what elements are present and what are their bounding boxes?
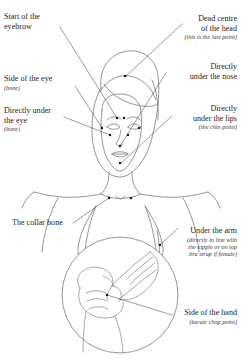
label-under-nose-line1: Directly: [210, 62, 237, 71]
label-side-of-eye-note: (bone): [4, 84, 52, 91]
label-under-eye-line2: the eye: [4, 116, 27, 125]
label-side-of-hand: Side of the hand (karate chop point): [184, 308, 237, 325]
label-dead-centre-line2: of the head: [201, 24, 237, 33]
label-start-of-eyebrow: Start of the eyebrow: [4, 12, 40, 31]
label-under-arm-note3: bra strap if female): [187, 250, 237, 257]
label-under-nose-line2: under the nose: [190, 72, 237, 81]
eft-tapping-points-diagram: Start of the eyebrow Dead centre of the …: [0, 0, 241, 359]
label-under-the-lips: Directly under the lips (the chin point): [193, 104, 237, 131]
label-under-arm-note1: (directly in line with: [187, 236, 237, 243]
under-arm-point: [159, 244, 162, 247]
label-under-the-arm: Under the arm (directly in line with the…: [187, 226, 237, 258]
side-of-eye-right: [138, 127, 141, 130]
label-under-the-eye: Directly under the eye (bone): [4, 106, 51, 133]
label-collar-bone: The collar bone: [12, 218, 63, 228]
label-under-the-nose: Directly under the nose: [190, 62, 237, 81]
collar-bone-left: [108, 197, 111, 200]
label-under-lips-note: (the chin point): [193, 123, 237, 130]
label-under-lips-line1: Directly: [210, 104, 237, 113]
side-of-eye-left: [101, 127, 104, 130]
eyebrow-point-right: [123, 117, 126, 120]
label-side-of-hand-note: (karate chop point): [184, 318, 237, 325]
karate-chop-point: [106, 294, 109, 297]
label-under-arm-note2: the nipple or on top: [187, 243, 237, 250]
label-under-eye-note: (bone): [4, 125, 51, 132]
eyebrow-point-left: [116, 117, 119, 120]
label-side-of-hand-line1: Side of the hand: [184, 308, 237, 317]
top-of-head-point: [124, 75, 127, 78]
hand-inset: [62, 237, 178, 353]
label-under-eye-line1: Directly under: [4, 106, 51, 115]
under-eye-right: [127, 134, 130, 137]
label-dead-centre-line1: Dead centre: [198, 14, 237, 23]
figure-illustration: [0, 0, 241, 359]
label-start-of-eyebrow-line1: Start of the: [4, 12, 40, 21]
label-dead-centre-note: (this is the last point): [184, 33, 237, 40]
label-side-of-eye-line1: Side of the eye: [4, 74, 52, 83]
under-lips-point: [119, 162, 122, 165]
label-start-of-eyebrow-line2: eyebrow: [4, 22, 32, 31]
label-side-of-eye: Side of the eye (bone): [4, 74, 52, 91]
under-nose-point: [119, 145, 122, 148]
under-eye-left: [109, 134, 112, 137]
label-under-arm-line1: Under the arm: [190, 226, 237, 235]
label-collar-bone-line1: The collar bone: [12, 218, 63, 227]
label-under-lips-line2: under the lips: [193, 114, 237, 123]
collar-bone-right: [130, 197, 133, 200]
label-dead-centre-of-head: Dead centre of the head (this is the las…: [184, 14, 237, 41]
